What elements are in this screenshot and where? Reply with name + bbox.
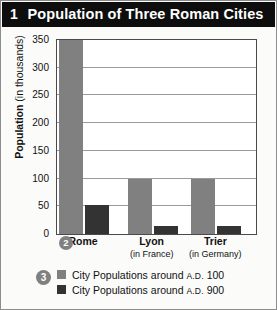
legend-label: City Populations around A.D. 100	[72, 268, 224, 283]
legend-swatch	[57, 285, 66, 294]
gridline	[57, 178, 256, 179]
legend-item: City Populations around A.D. 100	[57, 268, 272, 282]
x-axis-city-label: Trier	[165, 235, 265, 248]
chart-figure: Population of Three Roman Cities 1 Popul…	[0, 0, 277, 310]
bar-trier-series-2	[217, 226, 241, 234]
bar-rome-series-2	[85, 205, 109, 234]
x-axis-labels: RomeLyon(in France)Trier(in Germany)	[56, 235, 255, 263]
y-axis-tick: 300	[19, 61, 49, 72]
bar-lyon-series-2	[154, 226, 178, 234]
legend-label: City Populations around A.D. 900	[72, 283, 224, 298]
chart-title-bar: Population of Three Roman Cities 1	[2, 2, 275, 27]
legend-item: City Populations around A.D. 900	[57, 283, 272, 297]
bar-rome-series-1	[59, 40, 83, 234]
page-title: Population of Three Roman Cities	[2, 2, 275, 27]
y-axis-tick: 200	[19, 117, 49, 128]
y-axis-tick: 350	[19, 34, 49, 45]
gridline	[57, 94, 256, 95]
bar-trier-series-1	[191, 179, 215, 234]
gridline	[57, 150, 256, 151]
y-axis-tick-labels: 050100150200250300350	[19, 33, 49, 233]
plot-area	[56, 39, 257, 235]
callout-marker-2: 2	[59, 236, 73, 250]
chart-legend: City Populations around A.D. 100City Pop…	[57, 268, 272, 298]
legend-swatch	[57, 270, 66, 279]
callout-marker-3: 3	[36, 270, 51, 285]
y-axis-tick: 50	[19, 200, 49, 211]
y-axis-tick: 250	[19, 89, 49, 100]
y-axis-tick: 150	[19, 144, 49, 155]
x-axis-country-label: (in Germany)	[165, 248, 265, 260]
bar-lyon-series-1	[128, 179, 152, 234]
x-axis-group-trier: Trier(in Germany)	[165, 235, 265, 260]
y-axis-tick: 100	[19, 172, 49, 183]
gridline	[57, 67, 256, 68]
gridline	[57, 122, 256, 123]
